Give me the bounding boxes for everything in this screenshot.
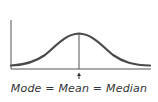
bell-curve	[11, 34, 150, 66]
up-arrow-icon	[77, 73, 81, 80]
mode-mean-median-label: Mode = Mean = Median	[0, 82, 158, 95]
